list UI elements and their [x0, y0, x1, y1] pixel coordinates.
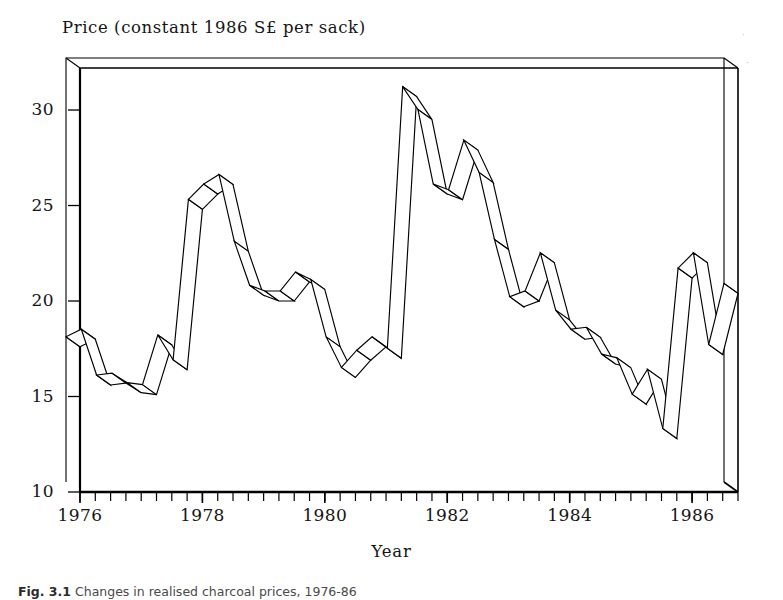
dust-speck-icon: ·: [746, 58, 749, 68]
y-tick-label: 20: [8, 290, 54, 310]
dust-speck-icon: ·: [742, 30, 745, 40]
caption-body: Changes in realised charcoal prices, 197…: [75, 584, 357, 599]
x-tick-label: 1984: [535, 505, 605, 525]
chart-canvas: [0, 0, 783, 545]
figure-caption: Fig. 3.1 Changes in realised charcoal pr…: [18, 584, 766, 600]
caption-label: Fig. 3.1: [18, 584, 71, 599]
x-tick-label: 1982: [412, 505, 482, 525]
x-tick-label: 1986: [657, 505, 727, 525]
figure-container: Price (constant 1986 S£ per sack) 101520…: [0, 0, 783, 600]
x-tick-label: 1978: [167, 505, 237, 525]
y-tick-label: 25: [8, 195, 54, 215]
data-ribbon: [66, 87, 738, 439]
x-axis-title: Year: [0, 542, 783, 561]
x-tick-label: 1976: [45, 505, 115, 525]
x-tick-label: 1980: [290, 505, 360, 525]
y-tick-label: 10: [8, 481, 54, 501]
y-tick-label: 15: [8, 386, 54, 406]
y-tick-label: 30: [8, 99, 54, 119]
